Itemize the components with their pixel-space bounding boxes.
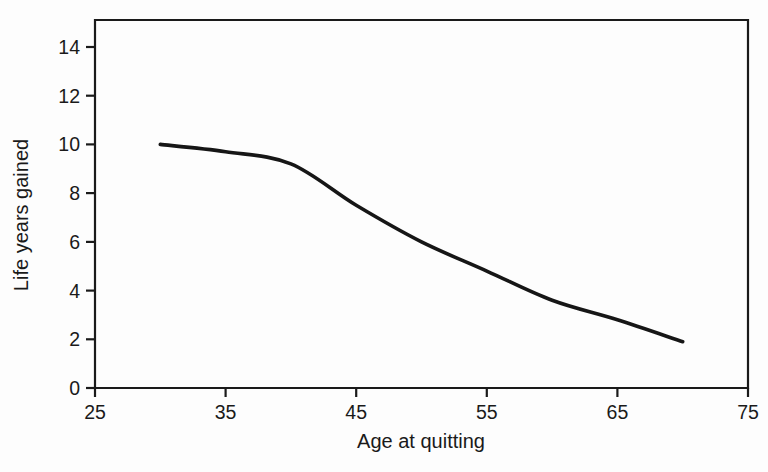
- x-tick-label: 75: [737, 401, 759, 423]
- figure: 25354555657502468101214 Age at quitting …: [0, 0, 768, 472]
- x-tick-label: 65: [607, 401, 629, 423]
- x-tick-label: 45: [345, 401, 367, 423]
- x-tick-label: 55: [476, 401, 498, 423]
- y-tick-label: 12: [58, 85, 80, 107]
- y-tick-label: 10: [58, 133, 80, 155]
- x-axis-label: Age at quitting: [357, 430, 485, 452]
- y-tick-label: 6: [69, 231, 80, 253]
- y-tick-label: 14: [58, 36, 80, 58]
- y-axis-label: Life years gained: [10, 139, 32, 291]
- y-tick-label: 2: [69, 328, 80, 350]
- y-tick-label: 0: [69, 377, 80, 399]
- y-tick-label: 8: [69, 182, 80, 204]
- plot-layer: 25354555657502468101214: [58, 20, 759, 423]
- x-tick-label: 35: [215, 401, 237, 423]
- plot-border: [95, 20, 748, 388]
- data-curve-life-years-gained: [160, 144, 682, 341]
- y-tick-label: 4: [69, 280, 80, 302]
- line-chart: 25354555657502468101214 Age at quitting …: [0, 0, 768, 472]
- x-tick-label: 25: [84, 401, 106, 423]
